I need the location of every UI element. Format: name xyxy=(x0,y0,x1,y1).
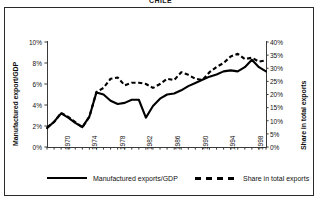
legend-swatch-dashed xyxy=(195,177,235,180)
chart-page: CHILE 10% 8% 6% 4% 2% 0% 40% 35% 30% 25%… xyxy=(0,0,321,201)
series-share-in-total-exports-line xyxy=(47,54,266,128)
legend-swatch-solid xyxy=(47,177,87,179)
series-manufactured-exports-gdp-line xyxy=(47,60,266,128)
chart-plot-area xyxy=(0,0,321,201)
legend-label-manufactured-exports-gdp: Manufactured exports/GDP xyxy=(93,175,178,183)
legend-label-share-in-total-exports: Share in total exports xyxy=(243,175,309,183)
chart-legend: Manufactured exports/GDP Share in total … xyxy=(47,176,277,188)
tick-marks xyxy=(44,42,268,150)
